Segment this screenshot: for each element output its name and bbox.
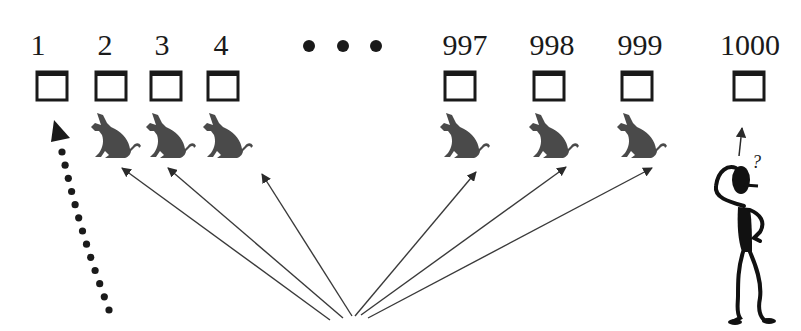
door-box (151, 71, 181, 100)
door-label: 997 (443, 28, 488, 61)
door-box (734, 71, 764, 100)
dotted-arrow-dot (105, 306, 112, 313)
person-foot (728, 319, 742, 325)
pointer-arrow (355, 172, 476, 316)
pointer-arrow (168, 168, 343, 318)
door-label: 998 (530, 28, 575, 61)
door-box (622, 71, 652, 100)
dotted-arrow-dot (62, 162, 69, 169)
door-label: 4 (214, 28, 229, 61)
person-figure: ? (716, 128, 776, 325)
dotted-arrow-dot (83, 241, 90, 248)
dotted-arrow-dot (96, 280, 103, 287)
question-mark: ? (752, 152, 761, 172)
donkey-icon (146, 113, 196, 158)
dotted-arrow-dot (87, 254, 94, 261)
dotted-arrow-dot (65, 175, 72, 182)
ellipsis (303, 40, 382, 52)
person-foot (762, 318, 776, 324)
dotted-arrow-dot (72, 201, 79, 208)
donkey-icon (440, 113, 490, 158)
doors-diagram: 12349979989991000 ? (0, 0, 801, 331)
person-head (732, 166, 750, 194)
ellipsis-dot (303, 40, 315, 52)
door-box (96, 71, 126, 100)
person-leg-left (732, 252, 743, 322)
door-label: 1000 (720, 28, 780, 61)
donkey-icon (617, 113, 667, 158)
pointer-arrow (368, 168, 652, 318)
pointer-arrow (262, 174, 352, 316)
dotted-arrow-dot (68, 188, 75, 195)
person-leg-right (750, 252, 772, 321)
donkey-icon (529, 113, 579, 158)
donkey-icon (203, 113, 253, 158)
ellipsis-dot (337, 40, 349, 52)
pointer-arrow (361, 167, 566, 315)
door-box (445, 71, 475, 100)
person-arrow (739, 128, 742, 156)
door-label: 2 (98, 28, 113, 61)
dotted-arrow-dot (75, 214, 82, 221)
dotted-arrow-dot (101, 293, 108, 300)
dotted-arrow-dot (58, 148, 65, 155)
pointer-arrow (122, 168, 330, 320)
dotted-arrow-dot (92, 267, 99, 274)
door-box (37, 71, 67, 100)
ellipsis-dot (370, 40, 382, 52)
person-body (738, 207, 752, 252)
person-cap-brim (744, 185, 758, 186)
door-box (208, 71, 238, 100)
dotted-arrow-dot (79, 227, 86, 234)
door-label: 1 (31, 28, 46, 61)
dotted-arrowhead (51, 120, 70, 142)
donkey-icon (91, 113, 141, 158)
door-label: 3 (155, 28, 170, 61)
door-box (534, 71, 564, 100)
door-label: 999 (618, 28, 663, 61)
